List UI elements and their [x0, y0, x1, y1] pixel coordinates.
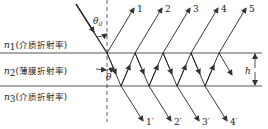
reflected-rays: [107, 8, 246, 53]
film-rays: [107, 53, 232, 86]
svg-text:1′: 1′: [146, 117, 154, 127]
medium-n2-label: n2(薄膜折射率): [4, 66, 67, 78]
thickness-label: h: [245, 66, 251, 76]
svg-text:1: 1: [137, 4, 143, 14]
thin-film-diagram: θ0 θ h 1 2 3 4 5 1′ 2′ 3′ 4′ n1(介质折射率) n…: [0, 0, 268, 129]
transmitted-rays: [121, 86, 227, 121]
transmitted-labels: 1′ 2′ 3′ 4′: [146, 117, 238, 127]
theta0-label: θ0: [93, 16, 102, 27]
angle-theta-arc: [107, 68, 114, 70]
svg-text:3: 3: [193, 4, 199, 14]
medium-n1-label: n1(介质折射率): [4, 40, 67, 52]
medium-n3-label: n3(介质折射率): [4, 92, 67, 104]
svg-text:2: 2: [165, 4, 171, 14]
angle-theta0-arc: [97, 34, 107, 37]
svg-text:4: 4: [221, 4, 227, 14]
svg-text:5: 5: [249, 4, 255, 14]
reflected-labels: 1 2 3 4 5: [137, 4, 255, 14]
theta-label: θ: [106, 72, 112, 82]
svg-text:4′: 4′: [230, 117, 238, 127]
svg-text:3′: 3′: [202, 117, 210, 127]
svg-text:2′: 2′: [174, 117, 182, 127]
